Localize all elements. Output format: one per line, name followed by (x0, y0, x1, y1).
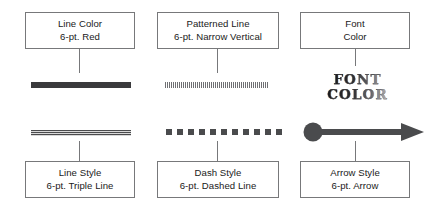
label-box-dash-style: Dash Style 6-pt. Dashed Line (157, 161, 279, 198)
dash-segment (221, 129, 227, 135)
label-box-font-color: Font Color (300, 12, 410, 49)
label-title: Line Color (58, 18, 102, 31)
label-spec: 6-pt. Narrow Vertical (174, 31, 262, 44)
sample-arrow (300, 121, 425, 143)
font-color-word-1: FONT (333, 73, 381, 87)
sample-dashed-line (166, 128, 276, 136)
dash-segment (232, 129, 238, 135)
label-title: Line Style (59, 167, 102, 180)
connector-stem-font-color (355, 49, 356, 66)
dash-segment (177, 129, 183, 135)
dash-segment (276, 129, 282, 135)
label-spec: 6-pt. Triple Line (47, 180, 114, 193)
label-title: Dash Style (195, 167, 242, 180)
dash-segment (199, 129, 205, 135)
dash-segment (254, 129, 260, 135)
dash-segment (210, 129, 216, 135)
label-box-line-color: Line Color 6-pt. Red (25, 12, 135, 49)
label-spec: 6-pt. Arrow (332, 180, 379, 193)
connector-stem-patterned-line (217, 49, 218, 73)
label-title: Arrow Style (330, 167, 380, 180)
label-title: Patterned Line (186, 18, 249, 31)
sample-narrow-vertical-line (165, 82, 269, 88)
sample-font-color-art: FONT COLOR (300, 68, 415, 106)
sample-solid-line (31, 82, 131, 88)
connector-stem-line-color (79, 49, 80, 73)
label-box-line-style: Line Style 6-pt. Triple Line (25, 161, 135, 198)
dash-segment (188, 129, 194, 135)
arrow-icon (300, 121, 425, 143)
font-color-word-2: COLOR (327, 88, 387, 102)
connector-stem-line-style (79, 141, 80, 161)
label-title: Font (345, 18, 364, 31)
style-samples-figure: Line Color 6-pt. Red Patterned Line 6-pt… (0, 0, 433, 210)
label-box-patterned-line: Patterned Line 6-pt. Narrow Vertical (157, 12, 279, 49)
label-spec: 6-pt. Red (60, 31, 100, 44)
dash-segment (265, 129, 271, 135)
label-spec: Color (343, 31, 366, 44)
connector-stem-dash-style (217, 141, 218, 161)
dash-segment (243, 129, 249, 135)
connector-stem-arrow-style (355, 141, 356, 161)
label-spec: 6-pt. Dashed Line (180, 180, 257, 193)
label-box-arrow-style: Arrow Style 6-pt. Arrow (300, 161, 410, 198)
dash-segment (166, 129, 172, 135)
sample-triple-line (31, 130, 131, 136)
